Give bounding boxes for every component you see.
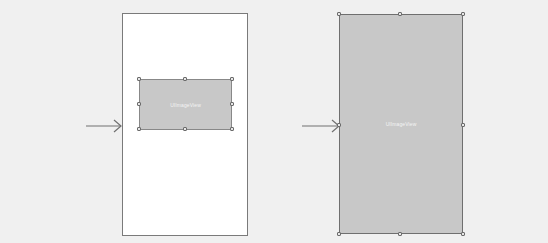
resize-handle[interactable] [137,127,141,131]
resize-handle[interactable] [230,77,234,81]
resize-handle[interactable] [461,12,465,16]
resize-handle[interactable] [137,77,141,81]
image-view-small[interactable]: UIImageView [139,79,232,130]
resize-handle[interactable] [337,12,341,16]
image-view-label: UIImageView [386,121,417,127]
right-arrow-icon [302,119,342,133]
resize-handle[interactable] [230,102,234,106]
resize-handle[interactable] [137,102,141,106]
resize-handle[interactable] [461,232,465,236]
image-view-full[interactable]: UIImageView [339,14,463,234]
right-arrow-icon [86,119,124,133]
image-view-label: UIImageView [170,102,201,108]
resize-handle[interactable] [398,12,402,16]
resize-handle[interactable] [183,77,187,81]
resize-handle[interactable] [398,232,402,236]
resize-handle[interactable] [337,232,341,236]
resize-handle[interactable] [461,123,465,127]
resize-handle[interactable] [230,127,234,131]
resize-handle[interactable] [337,123,341,127]
resize-handle[interactable] [183,127,187,131]
